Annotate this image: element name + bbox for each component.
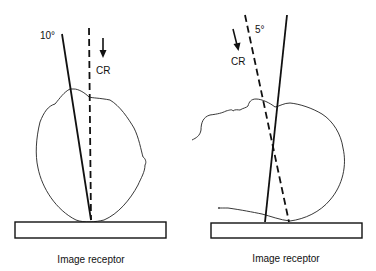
right-cr-arrow-icon	[233, 29, 241, 51]
left-receptor-label: Image receptor	[57, 254, 125, 265]
right-angle-label: 5°	[255, 24, 265, 35]
right-image-receptor	[211, 223, 362, 238]
right-cr-dashed-ray	[245, 15, 289, 222]
left-angle-label: 10°	[40, 30, 55, 41]
left-angled-ray	[62, 34, 91, 220]
left-cr-arrow-icon	[100, 38, 107, 58]
right-panel: 5° CR Image receptor	[192, 15, 362, 264]
left-cr-label: CR	[96, 65, 110, 76]
left-panel: 10° CR Image receptor	[15, 28, 166, 265]
radiography-diagram: 10° CR Image receptor 5° CR Image recept…	[0, 0, 376, 271]
left-image-receptor	[15, 222, 166, 238]
right-perpendicular-ray	[265, 15, 287, 222]
left-cr-dashed-ray	[89, 28, 91, 220]
right-receptor-label: Image receptor	[252, 253, 320, 264]
right-head-outline	[192, 99, 344, 221]
right-cr-label: CR	[231, 56, 245, 67]
